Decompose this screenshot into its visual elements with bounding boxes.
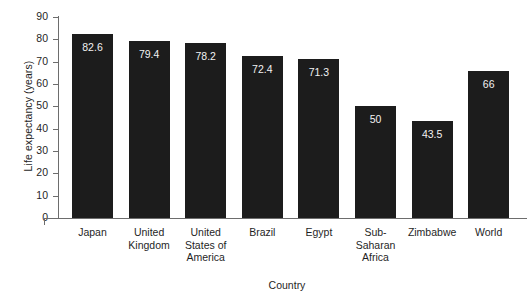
bar-value-label: 71.3	[298, 66, 339, 78]
bar-value-label: 66	[468, 78, 509, 90]
bar-value-label: 43.5	[412, 128, 453, 140]
bar-chart: Life expectancy (years) 9080706050403020…	[0, 0, 531, 304]
bar: 79.4	[129, 41, 170, 218]
bar: 66	[468, 71, 509, 218]
bar: 71.3	[298, 59, 339, 218]
bar-value-label: 50	[355, 113, 396, 125]
bar-value-label: 72.4	[242, 63, 283, 75]
bar: 50	[355, 106, 396, 218]
bar-value-label: 79.4	[129, 48, 170, 60]
bar-value-label: 78.2	[185, 50, 226, 62]
bar-value-label: 82.6	[72, 41, 113, 53]
x-axis-category-label: World	[451, 226, 527, 239]
bar: 82.6	[72, 34, 113, 218]
x-axis-title: Country	[237, 279, 337, 291]
bar: 78.2	[185, 43, 226, 218]
plot-area: 82.6Japan79.4UnitedKingdom78.2UnitedStat…	[0, 0, 531, 304]
bar: 43.5	[412, 121, 453, 218]
bar: 72.4	[242, 56, 283, 218]
